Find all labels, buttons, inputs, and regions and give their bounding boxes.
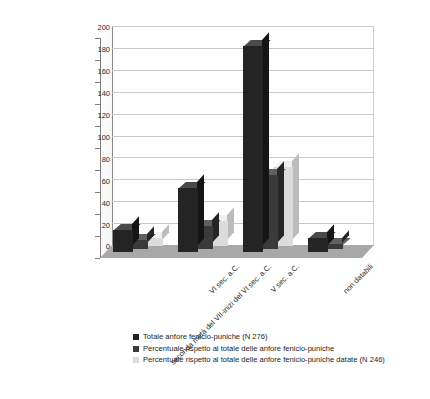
legend-label: Percentuale rispetto al totale delle anf… [143, 355, 385, 364]
bar-side-face [262, 32, 269, 246]
bar-chart: 200 180 160 140 120 100 80 60 40 20 0 se… [0, 0, 430, 330]
x-category-label-4: non databili [341, 262, 374, 295]
legend-swatch-icon [133, 334, 139, 340]
bar-side-face [197, 175, 204, 246]
bar-2-series-1 [178, 188, 198, 252]
bar-4-series-1 [308, 238, 328, 252]
bar-front-face [308, 238, 328, 252]
legend-item: Totale anfore fenicio-puniche (N 276) [133, 332, 423, 341]
chart-legend: Totale anfore fenicio-puniche (N 276) Pe… [133, 332, 423, 367]
bar-1-series-1 [113, 230, 133, 252]
bar-front-face [113, 230, 133, 252]
bar-side-face [292, 153, 299, 240]
legend-label: Totale anfore fenicio-puniche (N 276) [143, 332, 268, 341]
legend-swatch-icon [133, 357, 139, 363]
legend-swatch-icon [133, 346, 139, 352]
bar-front-face [178, 188, 198, 252]
bar-front-face [243, 46, 263, 252]
bar-side-face [277, 161, 284, 243]
legend-label: Percentuale rispetto al totale delle anf… [143, 344, 334, 353]
figure-container: 200 180 160 140 120 100 80 60 40 20 0 se… [0, 0, 430, 399]
x-category-label-3: V sec. a.C. [269, 262, 301, 294]
bar-3-series-1 [243, 46, 263, 252]
x-axis-category-labels: seconda metà del VII-inizi del VI sec. a… [0, 0, 430, 330]
legend-item: Percentuale rispetto al totale delle anf… [133, 355, 423, 364]
x-category-label-2: VI sec. a.C. [207, 262, 241, 296]
legend-item: Percentuale rispetto al totale delle anf… [133, 344, 423, 353]
